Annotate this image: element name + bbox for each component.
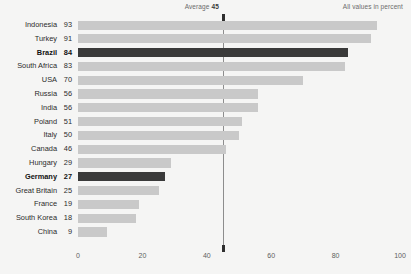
table-row: Great Britain25 (0, 186, 411, 200)
average-line-bottom-marker (222, 245, 225, 252)
bar (78, 89, 258, 98)
bar-value-label: 25 (58, 186, 72, 196)
bar-value-label: 70 (58, 75, 72, 85)
bar-value-label: 27 (58, 172, 72, 182)
bar-value-label: 29 (58, 158, 72, 168)
units-note: All values in percent (343, 3, 403, 10)
bar-category-label: France (34, 199, 57, 209)
bar-value-label: 46 (58, 144, 72, 154)
bar-value-label: 56 (58, 89, 72, 99)
bar-chart: Average45 All values in percent Indonesi… (0, 0, 411, 274)
table-row: Canada46 (0, 144, 411, 158)
bar (78, 103, 258, 112)
table-row: Poland51 (0, 117, 411, 131)
table-row: Brazil84 (0, 48, 411, 62)
bar-category-label: China (38, 227, 57, 237)
x-axis-tick-label: 60 (267, 252, 275, 259)
table-row: Indonesia93 (0, 20, 411, 34)
x-axis-tick-label: 40 (203, 252, 211, 259)
table-row: South Korea18 (0, 213, 411, 227)
table-row: South Africa83 (0, 61, 411, 75)
bar-category-label: South Africa (17, 61, 57, 71)
bar-category-label: Germany (25, 172, 57, 182)
average-annotation: Average45 (185, 3, 219, 10)
bar-value-label: 56 (58, 103, 72, 113)
bar-value-label: 50 (58, 130, 72, 140)
bar-value-label: 9 (58, 227, 72, 237)
table-row: China9 (0, 227, 411, 241)
bar-value-label: 83 (58, 61, 72, 71)
average-label: Average (185, 3, 210, 10)
bar (78, 48, 348, 57)
x-axis-tick-label: 0 (76, 252, 80, 259)
bar-category-label: Canada (31, 144, 57, 154)
bar (78, 145, 226, 154)
bar (78, 158, 171, 167)
bar-category-label: Poland (34, 117, 57, 127)
table-row: France19 (0, 199, 411, 213)
bar (78, 214, 136, 223)
x-axis: 020406080100 (0, 252, 411, 266)
bar-category-label: Hungary (29, 158, 57, 168)
bar (78, 172, 165, 181)
bar-category-label: Great Britain (16, 186, 58, 196)
bar-rows: Indonesia93Turkey91Brazil84South Africa8… (0, 20, 411, 241)
bar (78, 34, 371, 43)
bar (78, 200, 139, 209)
x-axis-tick-label: 100 (394, 252, 406, 259)
bar-value-label: 93 (58, 20, 72, 30)
table-row: Russia56 (0, 89, 411, 103)
bar-category-label: Turkey (35, 34, 57, 44)
bar (78, 21, 377, 30)
bar (78, 76, 303, 85)
bar-value-label: 51 (58, 117, 72, 127)
table-row: Italy50 (0, 130, 411, 144)
table-row: Hungary29 (0, 158, 411, 172)
table-row: USA70 (0, 75, 411, 89)
bar-value-label: 84 (58, 48, 72, 58)
bar-category-label: India (41, 103, 57, 113)
bar (78, 117, 242, 126)
bar-category-label: Indonesia (25, 20, 57, 30)
bar-category-label: Brazil (37, 48, 57, 58)
table-row: India56 (0, 103, 411, 117)
bar-value-label: 18 (58, 213, 72, 223)
table-row: Germany27 (0, 172, 411, 186)
table-row: Turkey91 (0, 34, 411, 48)
bar-category-label: USA (42, 75, 57, 85)
bar (78, 131, 239, 140)
x-axis-tick-label: 80 (332, 252, 340, 259)
bar-category-label: South Korea (16, 213, 57, 223)
bar-category-label: Italy (43, 130, 57, 140)
x-axis-tick-label: 20 (138, 252, 146, 259)
bar-value-label: 19 (58, 199, 72, 209)
bar (78, 186, 159, 195)
bar-category-label: Russia (34, 89, 57, 99)
average-value: 45 (211, 3, 218, 10)
bar (78, 227, 107, 236)
bar-value-label: 91 (58, 34, 72, 44)
bar (78, 62, 345, 71)
